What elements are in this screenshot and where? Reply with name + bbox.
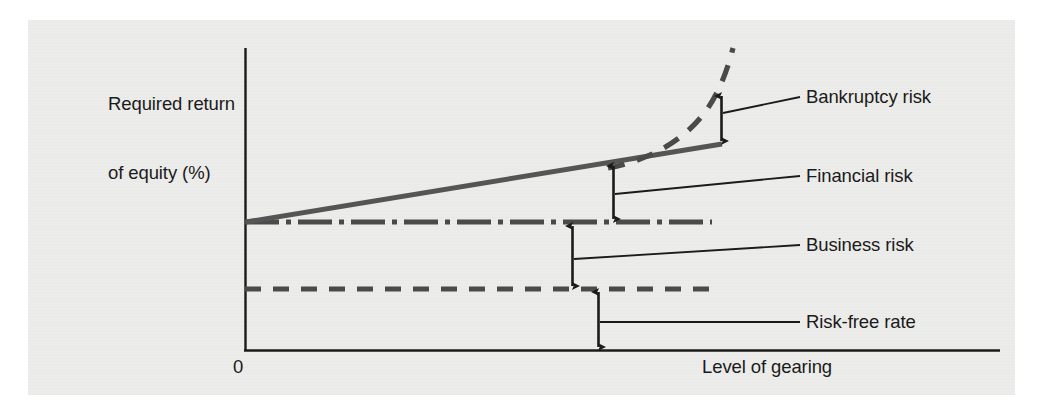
financial-risk-leader [615, 176, 800, 194]
y-axis-label-line-1: Required return [108, 92, 235, 115]
x-axis-label: Level of gearing [702, 355, 832, 378]
bankruptcy-risk-leader [723, 97, 800, 113]
annotation-risk-free-rate [599, 292, 801, 347]
annotation-business-risk [573, 226, 801, 286]
callout-label-bankruptcy-risk: Bankruptcy risk [806, 86, 931, 108]
callout-label-business-risk: Business risk [806, 234, 914, 256]
annotation-financial-risk [614, 166, 801, 219]
origin-tick-label: 0 [233, 355, 243, 378]
y-axis-label-line-2: of equity (%) [108, 161, 235, 184]
callout-label-risk-free-rate: Risk-free rate [806, 311, 916, 333]
callout-label-financial-risk: Financial risk [806, 165, 913, 187]
business-risk-leader [574, 245, 800, 259]
annotation-bankruptcy-risk [722, 96, 801, 141]
y-axis-label: Required return of equity (%) [108, 46, 235, 230]
figure-container: Required return of equity (%) Level of g… [0, 0, 1049, 415]
